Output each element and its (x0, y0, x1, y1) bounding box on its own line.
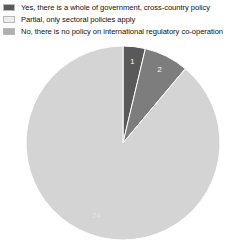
legend-label-partial: Partial, only sectoral policies apply (21, 14, 135, 25)
slice-no-value-label: 2 (157, 65, 161, 74)
pie-area: 1224 (0, 44, 246, 245)
legend-item-yes: Yes, there is a whole of government, cro… (3, 2, 246, 14)
legend-swatch-partial (3, 16, 15, 23)
chart-legend: Yes, there is a whole of government, cro… (3, 2, 246, 38)
legend-swatch-yes (3, 4, 15, 11)
legend-item-partial: Partial, only sectoral policies apply (3, 14, 246, 26)
pie-svg: 1224 (19, 44, 227, 242)
legend-label-no: No, there is no policy on international … (21, 26, 223, 37)
slice-yes-value-label: 1 (130, 57, 134, 66)
legend-swatch-no (3, 28, 15, 35)
slice-partial (26, 46, 220, 240)
pie-slices (26, 46, 220, 240)
legend-item-no: No, there is no policy on international … (3, 26, 246, 38)
slice-partial-value-label: 24 (92, 211, 100, 220)
pie-chart-figure: Yes, there is a whole of government, cro… (0, 0, 246, 245)
legend-label-yes: Yes, there is a whole of government, cro… (21, 2, 210, 13)
